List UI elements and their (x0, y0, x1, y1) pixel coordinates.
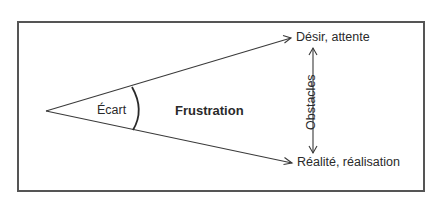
frustration-label: Frustration (175, 104, 244, 117)
gap-label: Écart (97, 104, 126, 117)
desire-label: Désir, attente (296, 31, 370, 44)
obstacles-label: Obstacles (305, 74, 318, 130)
arrow-to-desire (46, 38, 291, 111)
diagram-canvas (0, 0, 444, 203)
arrow-to-reality (46, 111, 292, 163)
reality-label: Réalité, réalisation (297, 156, 400, 169)
angle-arc-icon (132, 87, 139, 130)
